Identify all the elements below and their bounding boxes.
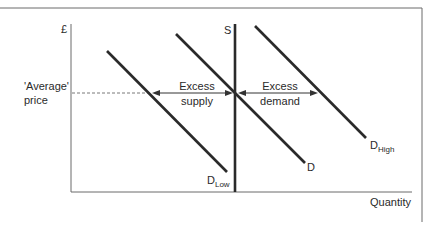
demand-high-label: DHigh: [370, 139, 394, 153]
excess-demand-label-line1: Excess: [255, 80, 305, 92]
average-price-label-line1: 'Average': [24, 80, 69, 92]
y-axis-label: £: [61, 23, 67, 35]
demand-low-label-subscript: Low: [215, 180, 230, 189]
excess-demand-label-line2: demand: [255, 95, 305, 107]
excess-supply-label-line1: Excess: [172, 80, 222, 92]
demand-low-label-main: D: [207, 174, 215, 186]
demand-curve-low: [107, 51, 227, 172]
demand-high-label-main: D: [370, 139, 378, 151]
average-price-label-line2: price: [24, 94, 48, 106]
demand-high-label-subscript: High: [378, 145, 394, 154]
demand-label: D: [307, 161, 315, 173]
excess-supply-label-line2: supply: [172, 95, 222, 107]
demand-low-label: DLow: [207, 174, 230, 188]
supply-label: S: [224, 24, 231, 36]
x-axis-label: Quantity: [370, 196, 411, 208]
